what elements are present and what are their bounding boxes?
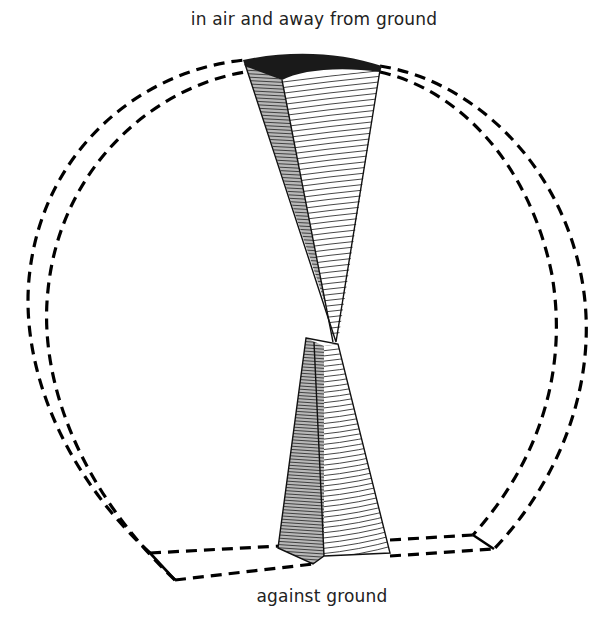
cone-ring-diagram [0, 0, 612, 631]
label-against-ground: against ground [16, 586, 612, 606]
upper-cone [230, 54, 390, 351]
lower-cone [270, 332, 395, 570]
